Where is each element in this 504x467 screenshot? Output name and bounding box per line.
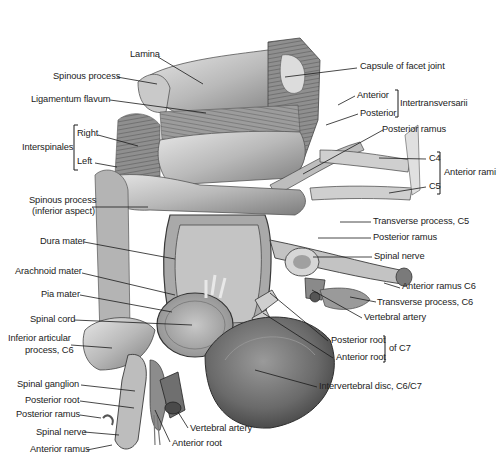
label-intertransversarii-posterior: Posterior	[360, 108, 396, 119]
label-vertebral-artery-right: Vertebral artery	[364, 312, 426, 323]
anatomy-figure: Lamina Spinous process Ligamentum flavum…	[0, 0, 504, 467]
label-c5: C5	[429, 181, 441, 192]
left-spinal-nerve-shape	[115, 354, 146, 449]
label-intervertebral-disc: Intervertebral disc, C6/C7	[319, 381, 422, 392]
label-spinous-process-inferior-line1: Spinous process	[29, 195, 96, 206]
label-anterior-ramus-c6: Anterior ramus C6	[402, 281, 476, 292]
label-dura-mater: Dura mater	[40, 236, 86, 247]
left-pedicle-shape	[95, 170, 130, 343]
label-lamina: Lamina	[130, 49, 160, 60]
label-spinous-process-inferior-line2: (inferior aspect)	[32, 206, 95, 217]
label-posterior-ramus-mid: Posterior ramus	[373, 232, 437, 243]
label-transverse-process-c5: Transverse process, C5	[373, 216, 469, 227]
label-interspinales-left: Left	[77, 156, 92, 167]
label-posterior-root-c7: Posterior root	[331, 335, 385, 346]
label-ligamentum-flavum: Ligamentum flavum	[31, 94, 110, 105]
label-posterior-ramus-left: Posterior ramus	[16, 409, 80, 420]
label-posterior-ramus-top: Posterior ramus	[382, 124, 446, 135]
label-arachnoid-mater: Arachnoid mater	[15, 266, 82, 277]
label-spinal-ganglion: Spinal ganglion	[17, 379, 79, 390]
label-interspinales-right: Right	[77, 128, 98, 139]
label-capsule-facet-joint: Capsule of facet joint	[360, 61, 445, 72]
label-inferior-articular-line1: Inferior articular	[8, 333, 71, 344]
label-anterior-rami: Anterior rami	[444, 167, 496, 178]
label-anterior-root-c7: Anterior root	[336, 352, 386, 363]
middle-lamina-shape	[158, 131, 305, 185]
label-anterior-ramus-left: Anterior ramus	[30, 444, 90, 455]
label-pia-mater: Pia mater	[41, 289, 80, 300]
label-intertransversarii-anterior: Anterior	[357, 90, 389, 101]
label-posterior-root-left: Posterior root	[25, 395, 79, 406]
intervertebral-disc-shape	[205, 317, 334, 428]
label-of-c7: of C7	[389, 343, 411, 354]
label-interspinales: Interspinales	[22, 142, 73, 153]
label-spinal-cord: Spinal cord	[30, 314, 75, 325]
label-spinal-nerve-left: Spinal nerve	[36, 427, 86, 438]
label-transverse-process-c6: Transverse process, C6	[377, 297, 473, 308]
label-anterior-root-bottom: Anterior root	[172, 438, 222, 449]
label-inferior-articular-line2: process, C6	[25, 345, 74, 356]
label-c4: C4	[429, 153, 441, 164]
label-intertransversarii: Intertransversarii	[400, 98, 467, 109]
label-vertebral-artery-bottom: Vertebral artery	[190, 423, 252, 434]
label-spinal-nerve-right: Spinal nerve	[374, 251, 424, 262]
label-spinous-process: Spinous process	[53, 71, 120, 82]
